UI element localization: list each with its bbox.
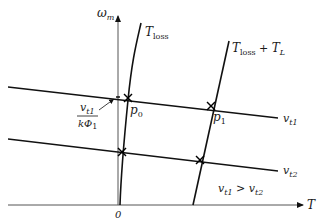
- annotation-arrow: [99, 99, 114, 110]
- y-axis-label: ωm: [97, 6, 115, 22]
- vt2-label: vt2: [283, 164, 298, 179]
- line-vt1: [8, 87, 278, 118]
- line-vt2: [8, 139, 278, 171]
- intercept-annotation: vt1 kΦ1: [77, 99, 114, 131]
- x-axis-label: T: [307, 198, 316, 212]
- origin-label: 0: [115, 209, 122, 220]
- t-loss-label: Tloss: [145, 25, 169, 41]
- condition-label: vt1 > vt2: [218, 182, 263, 197]
- fraction-denominator: kΦ1: [78, 118, 97, 131]
- vt1-label: vt1: [283, 112, 298, 127]
- fraction-numerator: vt1: [80, 101, 95, 116]
- t-loss-plus-load-label: Tloss + TL: [232, 41, 285, 57]
- point-p1-marker: [207, 102, 215, 110]
- torque-speed-diagram: ωm T 0 Tloss Tloss + TL vt1 vt2 p0 p1: [0, 0, 325, 224]
- p0-label: p0: [130, 103, 143, 119]
